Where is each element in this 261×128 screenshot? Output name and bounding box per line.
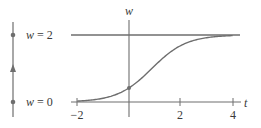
tick-label-4: 4 — [230, 108, 236, 122]
arrow-up-icon — [10, 64, 16, 72]
label-w-equals-0: w = 0 — [26, 95, 53, 109]
label-w-equals-2: w = 2 — [26, 28, 53, 42]
equilibrium-dot-w0 — [11, 100, 16, 105]
tick-label-2: 2 — [177, 108, 183, 122]
tick-label-minus-2: −2 — [71, 108, 84, 122]
phase-line — [10, 22, 16, 117]
solution-curve — [77, 36, 232, 102]
initial-condition-dot — [127, 86, 131, 90]
phase-line-and-solution-diagram: w = 2 w = 0 w t −2 2 4 — [0, 0, 261, 128]
w-axis-label: w — [125, 4, 133, 18]
t-axis-label: t — [244, 96, 248, 110]
equilibrium-dot-w2 — [11, 33, 16, 38]
